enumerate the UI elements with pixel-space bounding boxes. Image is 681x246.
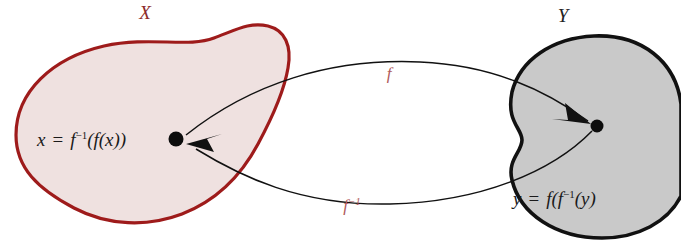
x-equation-exponent: −1 xyxy=(75,129,87,141)
forward-map-label: f xyxy=(387,64,394,83)
x-equation-equals: = xyxy=(52,129,63,150)
y-equation-equals: = xyxy=(528,188,539,209)
diagram-canvas: X Y f f−1 x=f−1(f(x)) y=f(f−1(y) xyxy=(0,0,681,246)
forward-map-label-text: f xyxy=(387,64,394,83)
inverse-map-label: f−1 xyxy=(343,195,361,215)
set-x-shape xyxy=(16,25,289,223)
set-x-region xyxy=(16,25,289,223)
inverse-function-diagram: X Y f f−1 x=f−1(f(x)) y=f(f−1(y) xyxy=(0,0,681,246)
set-x-label: X xyxy=(138,2,152,23)
inverse-map-label-exponent: −1 xyxy=(348,195,361,207)
y-point-dot xyxy=(591,120,604,133)
y-equation-exponent: −1 xyxy=(563,188,575,200)
y-equation-tail: (y) xyxy=(575,188,596,210)
x-equation-variable: x xyxy=(36,129,46,150)
x-point-dot xyxy=(169,132,184,147)
x-equation-tail: (f(x)) xyxy=(87,129,126,151)
y-equation-variable: y xyxy=(511,188,522,209)
set-y-label: Y xyxy=(558,5,571,26)
